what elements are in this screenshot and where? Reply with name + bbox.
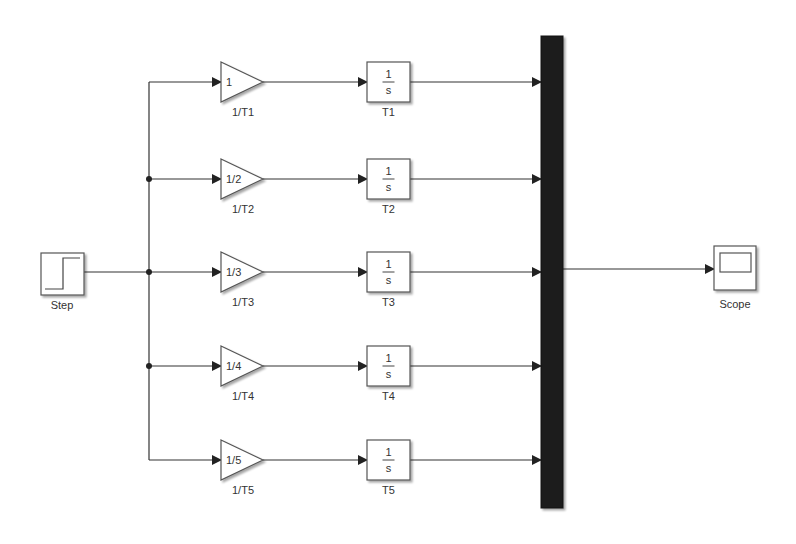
gain-block-5[interactable]: 1/51/T5 <box>221 440 263 496</box>
gain-label: 1/T4 <box>232 390 254 402</box>
scope-screen-icon <box>720 253 751 272</box>
mux-block[interactable] <box>541 36 563 508</box>
branch-point <box>146 363 152 369</box>
gain-value: 1/5 <box>226 454 241 466</box>
gain-label: 1/T2 <box>232 203 254 215</box>
gain-value: 1/3 <box>226 266 241 278</box>
integrator-denominator: s <box>386 274 392 286</box>
branch-point <box>146 176 152 182</box>
integrator-denominator: s <box>386 181 392 193</box>
branch-point <box>146 269 152 275</box>
gain-value: 1/2 <box>226 173 241 185</box>
integrator-block-1[interactable]: 1sT1 <box>367 62 410 118</box>
integrator-denominator: s <box>386 462 392 474</box>
gain-value: 1 <box>226 76 232 88</box>
integrator-denominator: s <box>386 84 392 96</box>
integrator-block-2[interactable]: 1sT2 <box>367 159 410 215</box>
integrator-numerator: 1 <box>385 352 391 364</box>
branch-group: 11/T11sT11/21/T21sT21/31/T31sT31/41/T41s… <box>221 62 410 496</box>
integrator-label: T1 <box>382 106 395 118</box>
gain-label: 1/T5 <box>232 484 254 496</box>
integrator-numerator: 1 <box>385 446 391 458</box>
gain-block-1[interactable]: 11/T1 <box>221 62 263 118</box>
integrator-block-3[interactable]: 1sT3 <box>367 252 410 308</box>
integrator-denominator: s <box>386 368 392 380</box>
integrator-numerator: 1 <box>385 165 391 177</box>
scope-block[interactable]: Scope <box>714 246 756 310</box>
step-block[interactable]: Step <box>41 253 84 311</box>
integrator-block-4[interactable]: 1sT4 <box>367 346 410 402</box>
gain-block-2[interactable]: 1/21/T2 <box>221 159 263 215</box>
integrator-label: T4 <box>382 390 395 402</box>
integrator-numerator: 1 <box>385 68 391 80</box>
gain-block-4[interactable]: 1/41/T4 <box>221 346 263 402</box>
gain-value: 1/4 <box>226 360 241 372</box>
scope-label: Scope <box>719 298 750 310</box>
gain-label: 1/T1 <box>232 106 254 118</box>
step-label: Step <box>51 299 74 311</box>
integrator-label: T2 <box>382 203 395 215</box>
integrator-label: T3 <box>382 296 395 308</box>
integrator-numerator: 1 <box>385 258 391 270</box>
model-canvas: Step 11/T11sT11/21/T21sT21/31/T31sT31/41… <box>0 0 796 544</box>
gain-block-3[interactable]: 1/31/T3 <box>221 252 263 308</box>
gain-label: 1/T3 <box>232 296 254 308</box>
integrator-label: T5 <box>382 484 395 496</box>
integrator-block-5[interactable]: 1sT5 <box>367 440 410 496</box>
